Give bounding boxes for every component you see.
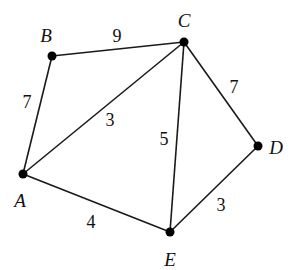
node-label-b: B (40, 25, 52, 46)
weighted-graph-diagram: 7935743 ABCDE (0, 0, 294, 270)
edge-weight-a-c: 3 (106, 110, 115, 130)
edge-a-c (23, 42, 184, 174)
nodes-layer (19, 38, 263, 237)
edge-c-d (184, 42, 258, 146)
edge-weight-a-b: 7 (23, 92, 32, 112)
node-labels-layer: ABCDE (12, 10, 283, 270)
node-label-d: D (268, 137, 283, 158)
node-label-e: E (163, 249, 176, 270)
edge-weight-b-c: 9 (113, 26, 122, 46)
node-label-c: C (178, 10, 191, 31)
node-b (48, 52, 57, 61)
node-e (166, 228, 175, 237)
edge-weight-a-e: 4 (87, 212, 96, 232)
node-c (180, 38, 189, 47)
edge-e-d (170, 146, 258, 232)
node-label-a: A (12, 190, 26, 211)
edge-c-e (170, 42, 184, 232)
edge-a-b (23, 56, 52, 174)
edge-weight-c-e: 5 (160, 129, 169, 149)
node-a (19, 170, 28, 179)
edge-a-e (23, 174, 170, 232)
node-d (254, 142, 263, 151)
edge-weight-c-d: 7 (230, 77, 239, 97)
edge-weight-e-d: 3 (217, 195, 226, 215)
